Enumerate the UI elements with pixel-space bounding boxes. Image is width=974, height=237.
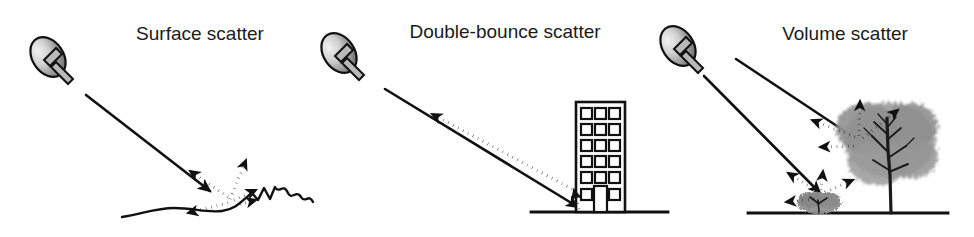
panel-title-volume-scatter: Volume scatter	[782, 23, 908, 44]
scattering-mechanisms-figure: Surface scatter Double-bounce scatter	[0, 0, 974, 237]
panel-title-surface-scatter: Surface scatter	[136, 23, 264, 44]
figure-canvas: Surface scatter Double-bounce scatter	[0, 0, 974, 237]
panel-title-double-bounce-scatter: Double-bounce scatter	[409, 21, 601, 42]
building-icon	[576, 102, 625, 212]
shrub-icon	[797, 192, 841, 214]
building-door	[594, 186, 607, 212]
